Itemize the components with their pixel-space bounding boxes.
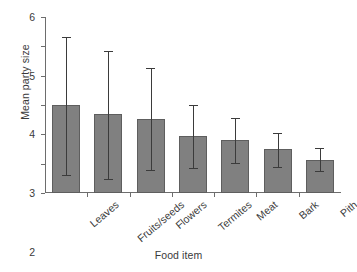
error-bar-cap-lower [273,167,282,168]
error-bar-cap-lower [315,171,324,172]
error-bar-cap-upper [104,51,113,52]
error-bar-cap-lower [104,179,113,180]
error-bar-line [235,118,236,163]
x-tick-label: Bark [297,199,320,221]
y-tick-label: 6 [29,12,35,23]
y-axis-line [45,17,46,193]
error-bar-line [108,51,109,179]
y-tick: 0 [41,193,45,194]
plot-area: 0123456 [45,17,341,193]
x-tick-label: Leaves [88,199,121,229]
bar-chart-figure: Mean party size 0123456 LeavesFruits/see… [0,0,357,272]
y-tick: 1 [41,164,45,165]
y-tick: 6 [41,17,45,18]
y-tick-label: 4 [29,129,35,140]
error-bar-cap-lower [62,175,71,176]
x-axis-title: Food item [0,249,357,261]
error-bar-cap-lower [189,168,198,169]
error-bar-cap-lower [146,170,155,171]
x-tick-label: Pith [338,199,357,219]
error-bar-cap-upper [273,133,282,134]
x-tick [214,193,215,197]
x-tick [172,193,173,197]
error-bar-cap-upper [315,148,324,149]
error-bar-cap-lower [231,163,240,164]
error-bar-cap-upper [189,105,198,106]
x-tick [87,193,88,197]
y-tick: 2 [41,134,45,135]
x-tick-label: Meat [255,199,280,222]
error-bar-line [151,68,152,170]
x-tick-label: Termites [216,199,253,233]
x-tick [299,193,300,197]
error-bar-line [320,148,321,171]
y-tick-label: 3 [29,188,35,199]
y-tick: 3 [41,105,45,106]
y-tick-label: 5 [29,70,35,81]
y-tick: 5 [41,46,45,47]
error-bar-cap-upper [62,37,71,38]
x-tick [130,193,131,197]
y-tick: 4 [41,76,45,77]
error-bar-line [278,133,279,167]
error-bar-line [66,37,67,175]
error-bar-cap-upper [146,68,155,69]
x-tick [256,193,257,197]
error-bar-line [193,105,194,167]
error-bar-cap-upper [231,118,240,119]
